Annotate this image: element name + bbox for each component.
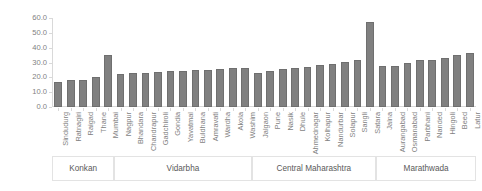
- x-tick-label: Thane: [99, 66, 108, 112]
- x-tick-label: Wardha: [223, 66, 232, 112]
- x-tick-mark: [345, 108, 346, 111]
- x-tick-mark: [407, 108, 408, 111]
- y-tick-label: 40.0: [32, 44, 47, 52]
- x-tick-mark: [158, 108, 159, 111]
- x-tick-mark: [83, 108, 84, 111]
- x-tick-label: Sangli: [360, 66, 369, 112]
- x-tick-label: Solapur: [348, 66, 357, 112]
- x-tick-mark: [121, 108, 122, 111]
- x-tick-mark: [445, 108, 446, 111]
- category-cell: Parbhani: [414, 108, 426, 156]
- category-cell: Amravati: [202, 108, 214, 156]
- category-cell: Hingoli: [439, 108, 451, 156]
- y-tick-label: 60.0: [32, 14, 47, 22]
- x-tick-mark: [395, 108, 396, 111]
- x-tick-mark: [295, 108, 296, 111]
- x-tick-mark: [333, 108, 334, 111]
- category-cell: Pune: [264, 108, 276, 156]
- x-tick-mark: [96, 108, 97, 111]
- category-cell: Chandrapur: [139, 108, 151, 156]
- bar-chart-figure: CoV (%) 0.010.020.030.040.050.060.0 Sind…: [0, 0, 482, 191]
- category-cell: Ahmednagar: [301, 108, 313, 156]
- x-tick-mark: [245, 108, 246, 111]
- x-tick-mark: [432, 108, 433, 111]
- x-tick-label-text: Latur: [473, 112, 482, 158]
- x-tick-mark: [283, 108, 284, 111]
- x-tick-mark: [370, 108, 371, 111]
- x-tick-mark: [133, 108, 134, 111]
- x-tick-mark: [308, 108, 309, 111]
- x-tick-mark: [146, 108, 147, 111]
- x-tick-mark: [382, 108, 383, 111]
- category-cell: Osmanabad: [401, 108, 413, 156]
- x-tick-label: Ratnagiri: [74, 66, 83, 112]
- x-tick-label: Jalgaon: [261, 66, 270, 112]
- category-cell: Nanded: [426, 108, 438, 156]
- category-cell: Washim: [239, 108, 251, 156]
- category-cell: Nasik: [276, 108, 288, 156]
- x-tick-label: Bhandara: [136, 66, 145, 112]
- x-axis-category-labels: SindudurgRatnagiriRaigadThaneMumbaiNagpu…: [52, 108, 476, 156]
- category-cell: Yavatmal: [177, 108, 189, 156]
- category-cell: Nagpur: [114, 108, 126, 156]
- x-tick-mark: [470, 108, 471, 111]
- x-tick-mark: [320, 108, 321, 111]
- x-tick-label: Nagpur: [124, 66, 133, 112]
- region-group-label: Vidarbha: [114, 156, 251, 180]
- category-cell: Buldhana: [189, 108, 201, 156]
- category-cell: Dhule: [289, 108, 301, 156]
- region-group-label: Central Maharashtra: [252, 156, 377, 180]
- category-cell: Gadchiroli: [152, 108, 164, 156]
- category-cell: Bhandara: [127, 108, 139, 156]
- x-tick-label: Mumbai: [111, 66, 120, 112]
- category-cell: Wardha: [214, 108, 226, 156]
- x-tick-mark: [58, 108, 59, 111]
- x-tick-label: Gondia: [173, 66, 182, 112]
- x-tick-label: Akola: [236, 66, 245, 112]
- category-cell: Latur: [463, 108, 475, 156]
- category-cell: Jalgaon: [252, 108, 264, 156]
- x-tick-label: Jalna: [385, 66, 394, 112]
- x-tick-mark: [183, 108, 184, 111]
- category-cell: Beed: [451, 108, 463, 156]
- category-cell: Aurangabad: [389, 108, 401, 156]
- category-cell: Sindudurg: [52, 108, 64, 156]
- y-axis-tick-labels: 0.010.020.030.040.050.060.0: [0, 0, 50, 107]
- x-tick-label: Kolhapur: [323, 66, 332, 112]
- y-tick-label: 20.0: [32, 73, 47, 81]
- x-tick-label: Osmanabad: [410, 66, 419, 112]
- x-tick-mark: [195, 108, 196, 111]
- x-tick-label: Parbhani: [423, 66, 432, 112]
- x-tick-mark: [208, 108, 209, 111]
- x-tick-mark: [220, 108, 221, 111]
- x-tick-label: Raigad: [86, 66, 95, 112]
- category-cell: Thane: [89, 108, 101, 156]
- category-cell: Raigad: [77, 108, 89, 156]
- x-tick-mark: [170, 108, 171, 111]
- x-tick-label: Satara: [373, 66, 382, 112]
- x-tick-mark: [233, 108, 234, 111]
- x-tick-label: Pune: [273, 66, 282, 112]
- category-cell: Jalna: [376, 108, 388, 156]
- region-group-label: Konkan: [52, 156, 114, 180]
- x-tick-label: Hingoli: [448, 66, 457, 112]
- y-tick-label: 0.0: [36, 103, 47, 111]
- x-tick-label: Sindudurg: [61, 66, 70, 112]
- category-cell: Solapur: [339, 108, 351, 156]
- x-tick-label: Yavatmal: [186, 66, 195, 112]
- region-group-label: Marathwada: [376, 156, 476, 180]
- x-tick-label: Nanded: [435, 66, 444, 112]
- category-cell: Ratnagiri: [64, 108, 76, 156]
- category-cell: Satara: [364, 108, 376, 156]
- x-tick-mark: [108, 108, 109, 111]
- x-tick-label: Chandrapur: [149, 66, 158, 112]
- x-tick-label: Nasik: [286, 66, 295, 112]
- x-tick-label: Washim: [248, 66, 257, 112]
- x-tick-mark: [357, 108, 358, 111]
- y-tick-label: 30.0: [32, 59, 47, 67]
- x-tick-label: Gadchiroli: [161, 66, 170, 112]
- group-band-bottom-border: [52, 180, 476, 181]
- x-tick-label: Beed: [460, 66, 469, 112]
- category-cell: Mumbai: [102, 108, 114, 156]
- category-cell: Nandurbar: [326, 108, 338, 156]
